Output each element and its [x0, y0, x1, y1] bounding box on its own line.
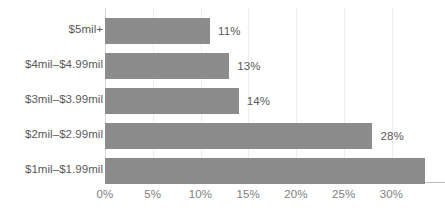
bar-row: 13% [105, 53, 445, 79]
bar-value-label: 28% [380, 130, 403, 142]
x-tick-label: 30% [380, 188, 403, 200]
x-tick-label: 25% [332, 188, 355, 200]
bar [105, 88, 239, 114]
bar [105, 158, 425, 184]
bar-row: 28% [105, 123, 445, 149]
bar [105, 123, 372, 149]
bar-value-label: 13% [237, 60, 260, 72]
bar-chart: 11%13%14%28% $5mil+$4mil–$4.99mil$3mil–$… [0, 0, 445, 212]
x-tick-label: 0% [97, 188, 114, 200]
bar [105, 53, 229, 79]
x-tick-label: 10% [189, 188, 212, 200]
category-label: $1mil–$1.99mil [0, 163, 103, 175]
x-tick-label: 15% [237, 188, 260, 200]
bar-row: 11% [105, 18, 445, 44]
bar-row [105, 158, 445, 184]
bar-row: 14% [105, 88, 445, 114]
bar-value-label: 14% [247, 95, 270, 107]
category-label: $3mil–$3.99mil [0, 93, 103, 105]
category-label: $5mil+ [0, 23, 103, 35]
bar-value-label: 11% [218, 25, 240, 37]
category-label: $4mil–$4.99mil [0, 58, 103, 70]
x-tick-label: 20% [284, 188, 307, 200]
x-tick-label: 5% [144, 188, 161, 200]
bar [105, 18, 210, 44]
category-label: $2mil–$2.99mil [0, 128, 103, 140]
